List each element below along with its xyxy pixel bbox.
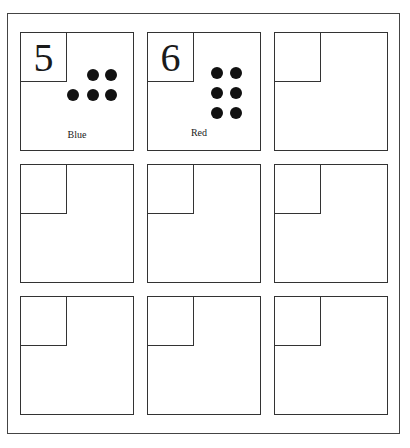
number-box [21,165,67,214]
number-box: 6 [148,33,194,82]
number-box [21,297,67,346]
card-5 [147,164,261,283]
dot-icon [87,69,99,81]
card-6 [274,164,388,283]
number-box [275,165,321,214]
card-label: Blue [21,129,133,140]
card-2: 6 Red [147,32,261,151]
card-8 [147,296,261,415]
dot-icon [211,67,223,79]
dot-icon [67,89,79,101]
card-7 [20,296,134,415]
card-3 [274,32,388,151]
dot-icon [230,87,242,99]
card-9 [274,296,388,415]
card-1: 5 Blue [20,32,134,151]
number-box [148,165,194,214]
dot-icon [105,89,117,101]
number-box: 5 [21,33,67,82]
dot-icon [230,67,242,79]
number-box [275,297,321,346]
dot-icon [87,89,99,101]
dot-icon [105,69,117,81]
dot-icon [211,87,223,99]
number-box [148,297,194,346]
number-box [275,33,321,82]
dot-icon [211,107,223,119]
card-label: Red [138,127,260,138]
card-4 [20,164,134,283]
dot-icon [230,107,242,119]
